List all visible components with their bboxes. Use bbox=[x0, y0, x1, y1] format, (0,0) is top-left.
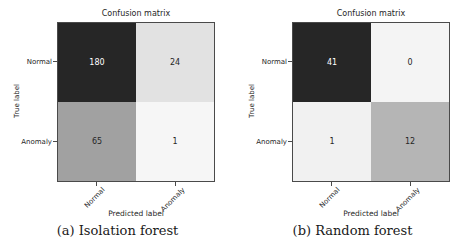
tick-mark bbox=[331, 182, 332, 186]
y-tick-label-normal: Normal bbox=[237, 58, 287, 66]
matrix-cell-true-normal-pred-anomaly: 0 bbox=[371, 23, 449, 102]
matrix-cell-true-normal-pred-normal: 180 bbox=[58, 23, 136, 102]
y-tick-label-normal: Normal bbox=[2, 58, 52, 66]
tick-mark bbox=[96, 182, 97, 186]
subfigure-random-forest: Confusion matrix True label Normal Anoma… bbox=[235, 0, 470, 251]
confusion-matrix-heatmap: 41 0 1 12 bbox=[292, 22, 450, 182]
x-axis-label: Predicted label bbox=[57, 209, 215, 218]
x-axis-label: Predicted label bbox=[292, 209, 450, 218]
matrix-cell-true-normal-pred-normal: 41 bbox=[293, 23, 371, 102]
subfigure-isolation-forest: Confusion matrix True label Normal Anoma… bbox=[0, 0, 235, 251]
confusion-matrix-heatmap: 180 24 65 1 bbox=[57, 22, 215, 182]
subfigure-caption: (a) Isolation forest bbox=[0, 223, 235, 238]
confusion-matrices-figure: Confusion matrix True label Normal Anoma… bbox=[0, 0, 470, 251]
y-axis-label: True label bbox=[13, 21, 21, 181]
y-tick-label-anomaly: Anomaly bbox=[237, 138, 287, 146]
matrix-cell-true-anomaly-pred-anomaly: 1 bbox=[136, 102, 214, 181]
matrix-cell-true-anomaly-pred-normal: 1 bbox=[293, 102, 371, 181]
subfigure-caption: (b) Random forest bbox=[235, 223, 470, 238]
tick-mark bbox=[410, 182, 411, 186]
matrix-cell-true-normal-pred-anomaly: 24 bbox=[136, 23, 214, 102]
chart-title: Confusion matrix bbox=[292, 9, 450, 18]
matrix-cell-true-anomaly-pred-anomaly: 12 bbox=[371, 102, 449, 181]
y-axis-label: True label bbox=[248, 21, 256, 181]
matrix-cell-true-anomaly-pred-normal: 65 bbox=[58, 102, 136, 181]
chart-title: Confusion matrix bbox=[57, 9, 215, 18]
y-tick-label-anomaly: Anomaly bbox=[2, 138, 52, 146]
tick-mark bbox=[175, 182, 176, 186]
